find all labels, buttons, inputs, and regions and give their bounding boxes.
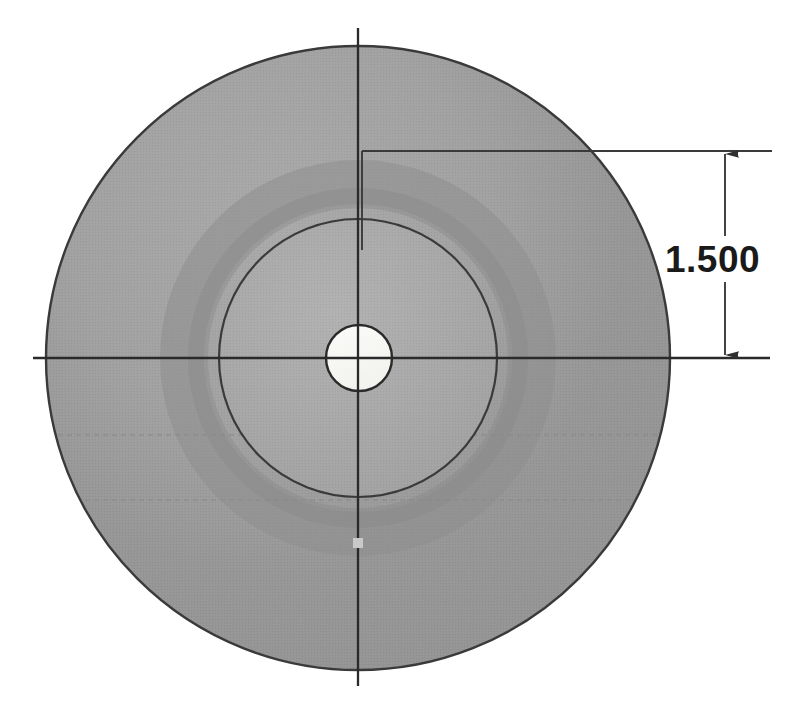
cad-drawing-svg: 1.500 — [0, 0, 802, 710]
dimension-value-text: 1.500 — [665, 239, 760, 280]
cad-drawing-canvas: 1.500 — [0, 0, 802, 710]
centerline-break-mark — [353, 538, 363, 548]
